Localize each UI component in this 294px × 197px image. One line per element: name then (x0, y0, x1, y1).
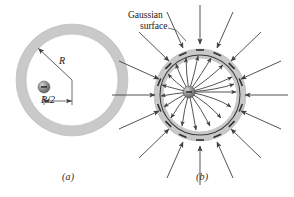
field-arrow-exterior (119, 111, 159, 129)
gaussian-surface-label-line1: Gaussian (128, 10, 163, 21)
shell-surface-charge-marks (158, 50, 243, 140)
field-arrow-exterior (241, 111, 281, 129)
panel-a-radius-line (39, 49, 73, 81)
panel-b-caption: (b) (196, 171, 208, 182)
panel-a-charge-sign (41, 86, 47, 88)
panel-a-caption: (a) (62, 171, 74, 182)
gaussian-surface-label-line2: surface (140, 21, 167, 32)
field-arrow-exterior (217, 12, 233, 48)
field-arrow-exterior (167, 142, 183, 178)
exterior-field-arrows (112, 5, 288, 185)
field-arrow-exterior (231, 32, 261, 61)
panel-b-charge-sign (186, 91, 192, 93)
field-arrow-exterior (217, 142, 233, 178)
field-arrow-exterior (139, 129, 169, 158)
field-arrow-exterior (167, 12, 183, 48)
panel-a-group (16, 24, 128, 136)
gaussian-surface-circle (160, 55, 240, 135)
panel-a-offset-label: R/2 (41, 94, 55, 105)
panel-b-shell-inner-edge (163, 58, 237, 132)
field-line-interior (189, 92, 231, 107)
panel-a-radius-label: R (59, 55, 65, 66)
field-arrow-exterior (241, 61, 281, 79)
panel-b-group (112, 5, 288, 185)
field-arrow-exterior (139, 32, 169, 61)
field-arrow-exterior (231, 129, 261, 158)
